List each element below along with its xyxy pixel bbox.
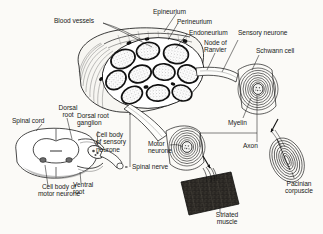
label-dorsal-root-ganglion: Dorsal root ganglion <box>77 112 109 127</box>
label-axon: Axon <box>243 142 258 149</box>
spinal-nerve-cut-end <box>117 163 123 169</box>
label-perineurium: Perineurium <box>177 18 212 25</box>
label-spinal-cord: Spinal cord <box>12 117 44 124</box>
label-blood-vessels: Blood vessels <box>54 17 94 24</box>
label-node-of-ranvier: Node of Ranvier <box>204 39 227 54</box>
axon-motor <box>182 142 192 153</box>
fascicle <box>146 84 170 102</box>
label-pacinian-corpuscle: Pacinian corpuscle <box>276 180 322 195</box>
label-epineurium: Epineurium <box>153 8 186 15</box>
label-myelin: Myelin <box>228 119 247 126</box>
label-motor-neurone: Motor neurone <box>148 140 172 155</box>
label-schwann-cell: Schwann cell <box>256 47 294 54</box>
label-cell-body-motor-neurone: Cell body of motor neurone <box>22 183 96 198</box>
label-cell-body-sensory-neurone: Cell body of sensory neurone <box>96 131 126 153</box>
label-endoneurium: Endoneurium <box>189 29 228 36</box>
label-sensory-neurone: Sensory neurone <box>238 29 287 36</box>
axon-sensory <box>253 84 263 95</box>
sensory-myelinated-fibre <box>238 64 278 114</box>
label-spinal-nerve: Spinal nerve <box>132 163 168 170</box>
label-striated-muscle: Striated muscle <box>205 211 249 226</box>
